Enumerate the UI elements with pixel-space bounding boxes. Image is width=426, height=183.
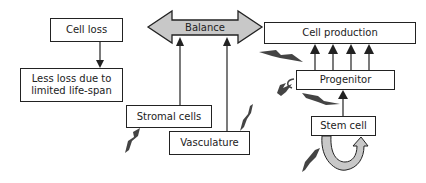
stromal-cells-box: Stromal cells [126, 105, 212, 128]
stem-cell-box: Stem cell [311, 116, 376, 136]
progenitor-to-production-arrows [310, 44, 374, 70]
balance-label: Balance [185, 22, 225, 33]
lightning-bolt-icon [259, 50, 303, 62]
lightning-bolt-icon [277, 83, 292, 96]
progenitor-box: Progenitor [296, 70, 395, 90]
vasculature-box: Vasculature [169, 131, 250, 155]
cell-production-box: Cell production [264, 22, 416, 44]
inhibition-curve-icon [288, 79, 294, 88]
arrowhead-icon [338, 90, 348, 99]
lightning-bolt-icon [240, 104, 253, 131]
arrowhead-icon [96, 60, 104, 68]
arrowhead-icon [223, 37, 231, 46]
arrowhead-icon [176, 37, 184, 46]
lightning-bolt-icon [302, 93, 340, 105]
self-renewal-arrow-icon [322, 136, 368, 170]
less-loss-box: Less loss due to limited life-span [20, 68, 123, 102]
lightning-bolt-icon [302, 148, 320, 172]
cell-loss-box: Cell loss [50, 18, 123, 42]
lightning-bolt-icon [125, 128, 140, 153]
